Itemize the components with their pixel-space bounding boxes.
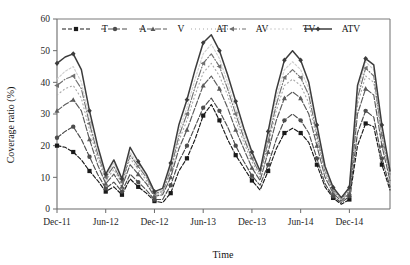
data-point-marker bbox=[113, 27, 117, 31]
x-tick-label: Dec-12 bbox=[140, 217, 168, 227]
data-point-marker bbox=[217, 109, 221, 113]
data-point-marker bbox=[185, 143, 189, 147]
chart-figure: 0102030405060 Dec-11Jun-12Dec-12Jun-13De… bbox=[0, 0, 410, 265]
data-point-marker bbox=[87, 155, 91, 159]
data-point-marker bbox=[136, 185, 140, 189]
y-tick-label: 10 bbox=[41, 173, 51, 183]
data-point-marker bbox=[87, 169, 91, 173]
data-point-marker bbox=[250, 174, 254, 178]
data-point-marker bbox=[315, 156, 319, 160]
data-point-marker bbox=[282, 118, 286, 122]
data-point-marker bbox=[201, 113, 205, 117]
data-point-marker bbox=[71, 124, 75, 128]
data-point-marker bbox=[234, 153, 238, 157]
data-point-marker bbox=[74, 27, 78, 31]
x-axis-label: Time bbox=[213, 249, 234, 260]
data-point-marker bbox=[363, 109, 367, 113]
x-tick-label: Dec-14 bbox=[335, 217, 363, 227]
y-tick-label: 50 bbox=[41, 46, 51, 56]
x-tick-label: Dec-13 bbox=[238, 217, 266, 227]
data-point-marker bbox=[71, 150, 75, 154]
data-point-marker bbox=[380, 156, 384, 160]
legend-label-v: V bbox=[178, 24, 185, 34]
data-point-marker bbox=[201, 105, 205, 109]
x-tick-label: Jun-12 bbox=[93, 217, 119, 227]
data-point-marker bbox=[55, 144, 59, 148]
x-tick-label: Jun-13 bbox=[190, 217, 216, 227]
data-point-marker bbox=[136, 180, 140, 184]
data-point-marker bbox=[364, 121, 368, 125]
y-axis-label: Coverage ratio (%) bbox=[5, 87, 17, 164]
y-tick-label: 20 bbox=[41, 141, 51, 151]
data-point-marker bbox=[169, 191, 173, 195]
data-point-marker bbox=[266, 162, 270, 166]
x-tick-label: Jun-14 bbox=[288, 217, 314, 227]
data-point-marker bbox=[120, 189, 124, 193]
data-point-marker bbox=[299, 131, 303, 135]
data-point-marker bbox=[298, 118, 302, 122]
y-tick-label: 40 bbox=[41, 78, 51, 88]
data-point-marker bbox=[185, 156, 189, 160]
data-point-marker bbox=[233, 143, 237, 147]
legend-label-atv: ATV bbox=[342, 24, 361, 34]
y-tick-label: 0 bbox=[45, 204, 50, 214]
data-point-marker bbox=[55, 136, 59, 140]
data-point-marker bbox=[104, 186, 108, 190]
data-point-marker bbox=[169, 183, 173, 187]
data-point-marker bbox=[266, 169, 270, 173]
x-tick-label: Dec-11 bbox=[43, 217, 71, 227]
data-point-marker bbox=[282, 131, 286, 135]
coverage-ratio-line-chart: 0102030405060 Dec-11Jun-12Dec-12Jun-13De… bbox=[0, 0, 410, 265]
data-point-marker bbox=[217, 118, 221, 122]
data-point-marker bbox=[250, 178, 254, 182]
y-tick-label: 60 bbox=[41, 14, 51, 24]
y-tick-label: 30 bbox=[41, 109, 51, 119]
